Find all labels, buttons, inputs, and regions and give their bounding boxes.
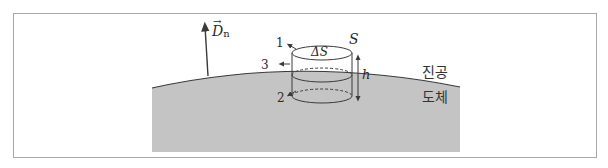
- face-2-label: 2: [277, 92, 285, 104]
- surface-s-label: S: [349, 32, 359, 46]
- vacuum-label: 진공: [422, 65, 448, 79]
- diagram-canvas: [0, 0, 608, 168]
- height-h-label: h: [362, 68, 370, 81]
- conductor-region: [152, 71, 460, 152]
- face-1-label: 1: [276, 37, 284, 49]
- dn-subscript: n: [223, 28, 229, 39]
- face-3-label: 3: [261, 59, 269, 71]
- delta-s-label: ΔS: [311, 46, 328, 58]
- face-1-pointer: [289, 45, 296, 49]
- dn-vector-label: → D n: [212, 24, 230, 38]
- dn-vector-arrow: [205, 26, 208, 76]
- conductor-label: 도체: [422, 90, 448, 104]
- vector-arrow-icon: →: [213, 17, 221, 27]
